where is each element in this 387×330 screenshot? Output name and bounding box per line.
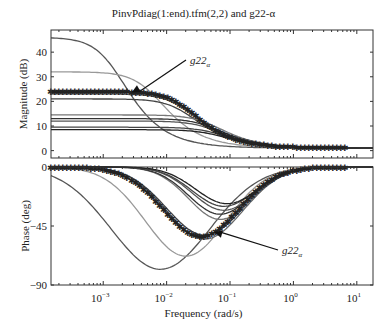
curve-plant-2	[51, 167, 373, 256]
bode-figure: PinvPdiag(1:end).tfm(2,2) and g22-α ✱✱✱✱…	[0, 0, 387, 330]
y-tick-label: 0	[42, 145, 48, 157]
star-marker: ✱	[341, 163, 349, 173]
y-tick-label: 30	[36, 71, 48, 83]
y-tick-label: 40	[36, 46, 48, 58]
phase-y-label: Phase (deg)	[19, 191, 31, 261]
y-tick-label: 10	[36, 120, 48, 132]
x-tick-label: 101	[347, 291, 362, 304]
magnitude-y-label: Magnitude (dB)	[17, 49, 29, 139]
y-tick-label: −90	[30, 279, 48, 291]
x-tick-label: 10−2	[154, 291, 173, 304]
curve-plant-2	[51, 72, 373, 148]
y-tick-label: 0	[42, 161, 48, 173]
phase-panel: ✱✱✱✱✱✱✱✱✱✱✱✱✱✱✱✱✱✱✱✱✱✱✱✱✱✱✱✱✱✱✱✱✱✱✱✱✱✱✱✱…	[30, 161, 373, 291]
x-axis-label: Frequency (rad/s)	[0, 307, 387, 319]
x-tick-label: 100	[283, 291, 298, 304]
x-tick-label: 10−3	[91, 291, 110, 304]
y-tick-label: 20	[36, 95, 48, 107]
y-tick-label: −45	[30, 220, 48, 232]
bode-plot: ✱✱✱✱✱✱✱✱✱✱✱✱✱✱✱✱✱✱✱✱✱✱✱✱✱✱✱✱✱✱✱✱✱✱✱✱✱✱✱✱…	[0, 0, 387, 330]
star-marker: ✱	[341, 143, 349, 153]
magnitude-panel: ✱✱✱✱✱✱✱✱✱✱✱✱✱✱✱✱✱✱✱✱✱✱✱✱✱✱✱✱✱✱✱✱✱✱✱✱✱✱✱✱…	[36, 30, 373, 158]
chart-title: PinvPdiag(1:end).tfm(2,2) and g22-α	[0, 7, 387, 19]
x-tick-label: 10−1	[218, 291, 237, 304]
annotation-label: g22α	[190, 54, 211, 69]
annotation-label: g22α	[282, 244, 303, 259]
curve-plant-4	[51, 167, 373, 235]
